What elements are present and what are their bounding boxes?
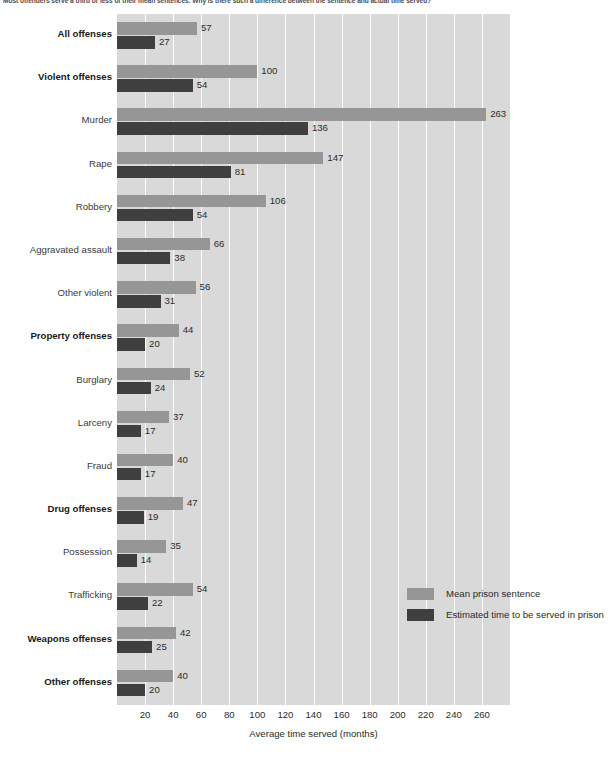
legend-label-mean: Mean prison sentence — [446, 585, 540, 603]
bar-group: 3514 — [117, 532, 510, 575]
bar-mean-sentence — [117, 411, 169, 424]
bar-group: 263136 — [117, 100, 510, 143]
legend-item-served: Estimated time to be served in prison — [407, 606, 608, 627]
bar-time-served — [117, 79, 193, 92]
bar-time-served — [117, 597, 148, 610]
legend-swatch-mean-icon — [407, 588, 434, 600]
category-label: Possession — [0, 546, 112, 557]
plot-area: 5727100542631361478110654663856314420522… — [117, 14, 510, 705]
bar-value-label: 25 — [156, 641, 167, 654]
bar-value-label: 27 — [159, 36, 170, 49]
bar-value-label: 66 — [214, 238, 225, 251]
bar-value-label: 17 — [145, 468, 156, 481]
bar-mean-sentence — [117, 497, 183, 510]
category-label: Other offenses — [0, 676, 112, 687]
bar-time-served — [117, 36, 155, 49]
bar-value-label: 54 — [197, 79, 208, 92]
bar-group: 5224 — [117, 360, 510, 403]
x-tick-label: 180 — [362, 709, 378, 720]
bar-mean-sentence — [117, 195, 266, 208]
x-tick-label: 20 — [140, 709, 151, 720]
category-label: Rape — [0, 158, 112, 169]
bar-value-label: 20 — [149, 684, 160, 697]
chart-caption: Most offenders serve a third or less of … — [3, 0, 522, 6]
x-tick-label: 40 — [168, 709, 179, 720]
category-label: Aggravated assault — [0, 244, 112, 255]
category-label: Burglary — [0, 374, 112, 385]
bar-time-served — [117, 554, 137, 567]
bar-value-label: 19 — [148, 511, 159, 524]
bar-time-served — [117, 338, 145, 351]
bar-value-label: 47 — [187, 497, 198, 510]
bar-value-label: 44 — [183, 324, 194, 337]
category-label: Trafficking — [0, 589, 112, 600]
bar-group: 6638 — [117, 230, 510, 273]
category-label: Larceny — [0, 417, 112, 428]
bar-mean-sentence — [117, 324, 179, 337]
bar-mean-sentence — [117, 540, 166, 553]
x-tick-label: 220 — [418, 709, 434, 720]
bar-value-label: 136 — [312, 122, 328, 135]
bar-value-label: 24 — [155, 382, 166, 395]
bar-value-label: 57 — [201, 22, 212, 35]
bar-group: 5631 — [117, 273, 510, 316]
bar-mean-sentence — [117, 627, 176, 640]
x-tick-label: 200 — [390, 709, 406, 720]
bar-group: 4020 — [117, 662, 510, 705]
bar-value-label: 56 — [200, 281, 211, 294]
bar-time-served — [117, 425, 141, 438]
bar-mean-sentence — [117, 583, 193, 596]
bar-group: 10054 — [117, 57, 510, 100]
bar-time-served — [117, 382, 151, 395]
bar-value-label: 147 — [327, 152, 343, 165]
legend-item-mean: Mean prison sentence — [407, 585, 608, 606]
category-label: Fraud — [0, 460, 112, 471]
bar-mean-sentence — [117, 281, 196, 294]
bar-time-served — [117, 468, 141, 481]
category-label: All offenses — [0, 28, 112, 39]
bar-mean-sentence — [117, 670, 173, 683]
category-label: Drug offenses — [0, 503, 112, 514]
bar-time-served — [117, 684, 145, 697]
x-tick-label: 140 — [305, 709, 321, 720]
bar-value-label: 14 — [141, 554, 152, 567]
x-tick-label: 240 — [446, 709, 462, 720]
chart-legend: Mean prison sentence Estimated time to b… — [407, 585, 608, 627]
bar-value-label: 37 — [173, 411, 184, 424]
bar-value-label: 35 — [170, 540, 181, 553]
bar-value-label: 40 — [177, 454, 188, 467]
bar-mean-sentence — [117, 454, 173, 467]
bar-time-served — [117, 166, 231, 179]
bar-mean-sentence — [117, 108, 486, 121]
bar-time-served — [117, 511, 144, 524]
category-label: Property offenses — [0, 330, 112, 341]
category-labels: All offensesViolent offensesMurderRapeRo… — [0, 14, 112, 705]
category-label: Murder — [0, 114, 112, 125]
bar-group: 3717 — [117, 403, 510, 446]
bar-group: 4719 — [117, 489, 510, 532]
x-axis-label: Average time served (months) — [117, 728, 510, 739]
bar-group: 4017 — [117, 446, 510, 489]
x-axis-ticks: 20406080100120140160180200220240260 — [117, 705, 510, 725]
x-tick-label: 120 — [277, 709, 293, 720]
bar-value-label: 54 — [197, 209, 208, 222]
x-tick-label: 100 — [249, 709, 265, 720]
bar-value-label: 81 — [235, 166, 246, 179]
bar-group: 5727 — [117, 14, 510, 57]
x-tick-label: 80 — [224, 709, 235, 720]
bar-value-label: 17 — [145, 425, 156, 438]
bar-value-label: 106 — [270, 195, 286, 208]
bar-time-served — [117, 209, 193, 222]
bar-group: 4420 — [117, 316, 510, 359]
x-tick-label: 160 — [334, 709, 350, 720]
bar-group: 10654 — [117, 187, 510, 230]
bar-value-label: 40 — [177, 670, 188, 683]
legend-label-served: Estimated time to be served in prison — [446, 606, 604, 624]
bar-time-served — [117, 295, 161, 308]
legend-swatch-served-icon — [407, 609, 434, 621]
bar-mean-sentence — [117, 152, 323, 165]
bar-value-label: 52 — [194, 368, 205, 381]
x-tick-label: 60 — [196, 709, 207, 720]
bar-value-label: 54 — [197, 583, 208, 596]
bar-time-served — [117, 122, 308, 135]
